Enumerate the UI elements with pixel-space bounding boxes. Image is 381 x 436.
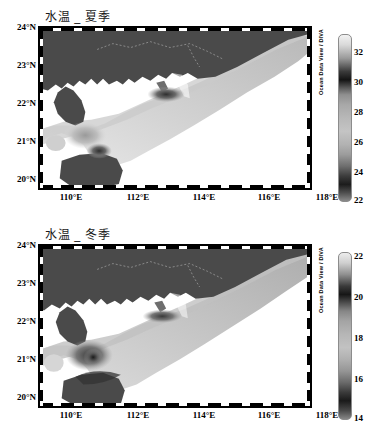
cold-core-leizhou-bay [83, 348, 103, 366]
colorbar-tick-label: 24 [354, 167, 363, 177]
colorbar-gradient-summer [338, 34, 352, 202]
y-tick-label: 22°N [0, 98, 36, 108]
y-tick-label: 22°N [0, 316, 36, 326]
panel-winter: 水温 _ 冬季 24°N 23°N 22°N 21°N 20°N [0, 218, 381, 436]
x-axis-winter: 110°E 112°E 114°E 116°E 118°E [38, 410, 312, 426]
x-tick-label: 112°E [127, 410, 150, 420]
colorbar-tick-label: 20 [354, 292, 363, 302]
map-canvas-winter [40, 246, 310, 406]
y-tick-label: 21°N [0, 354, 36, 364]
colorbar-tick-label: 30 [354, 77, 363, 87]
y-tick-label: 20°N [0, 392, 36, 402]
x-tick-label: 118°E [316, 410, 339, 420]
map-canvas-summer [40, 28, 310, 188]
odv-credit-summer: Ocean Data View / DIVA [318, 29, 324, 95]
y-axis-summer: 24°N 23°N 22°N 21°N 20°N [0, 26, 36, 190]
x-tick-label: 110°E [60, 410, 83, 420]
y-tick-label: 21°N [0, 136, 36, 146]
cool-patch-south-leizhou [86, 143, 112, 159]
odv-credit-winter: Ocean Data View / DIVA [318, 247, 324, 313]
x-tick-label: 118°E [316, 192, 339, 202]
colorbar-tick-label: 16 [354, 374, 363, 384]
x-tick-label: 116°E [258, 410, 281, 420]
colorbar-tick-label: 14 [354, 413, 363, 423]
colorbar-tick-label: 26 [354, 137, 363, 147]
x-tick-label: 116°E [258, 192, 281, 202]
colorbar-labels-winter: 22 20 18 16 14 [354, 252, 380, 420]
warm-patch-beibu-gulf [46, 135, 66, 151]
colorbar-tick-label: 22 [354, 195, 363, 205]
x-tick-label: 110°E [60, 192, 83, 202]
y-tick-label: 24°N [0, 22, 36, 32]
x-tick-label: 114°E [193, 410, 216, 420]
y-tick-label: 24°N [0, 240, 36, 250]
colorbar-summer [338, 34, 352, 202]
panel-summer: 水温 _ 夏季 24°N 23°N 22°N 21°N 20°N [0, 0, 381, 218]
warm-patch-beibu-gulf [44, 354, 64, 372]
colorbar-labels-summer: 32 30 28 26 24 22 [354, 34, 380, 202]
panel-title-summer: 水温 _ 夏季 [45, 7, 110, 24]
colorbar-tick-label: 22 [354, 251, 363, 261]
cool-patch-pearl-river-mouth [147, 87, 184, 103]
y-tick-label: 20°N [0, 174, 36, 184]
cool-patch-pearl-river-mouth [142, 309, 181, 323]
y-tick-label: 23°N [0, 60, 36, 70]
y-tick-label: 23°N [0, 278, 36, 288]
colorbar-tick-label: 32 [354, 47, 363, 57]
x-tick-label: 112°E [127, 192, 150, 202]
panel-title-winter: 水温 _ 冬季 [45, 225, 110, 242]
colorbar-tick-label: 28 [354, 107, 363, 117]
x-tick-label: 114°E [193, 192, 216, 202]
colorbar-winter [338, 252, 352, 420]
map-winter[interactable] [38, 244, 312, 408]
y-axis-winter: 24°N 23°N 22°N 21°N 20°N [0, 244, 36, 408]
colorbar-tick-label: 18 [354, 333, 363, 343]
x-axis-summer: 110°E 112°E 114°E 116°E 118°E [38, 192, 312, 208]
map-summer[interactable] [38, 26, 312, 190]
colorbar-gradient-winter [338, 252, 352, 420]
